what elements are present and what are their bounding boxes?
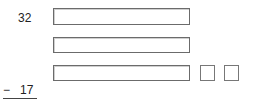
bottom-number: 17	[20, 84, 33, 96]
answer-box-2[interactable]	[53, 37, 190, 53]
top-number: 32	[18, 12, 31, 24]
small-box-1[interactable]	[200, 65, 215, 81]
answer-box-3[interactable]	[53, 65, 190, 81]
answer-box-1[interactable]	[53, 8, 190, 25]
minus-operator: −	[3, 84, 10, 96]
subtraction-rule	[3, 98, 37, 99]
small-box-2[interactable]	[224, 65, 239, 81]
